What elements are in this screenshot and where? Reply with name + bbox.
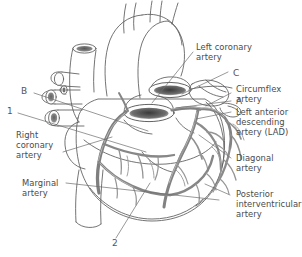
aortic-ostium-lumen: [130, 108, 169, 119]
superior-vena-cava: [70, 48, 79, 122]
label-left-coronary-artery: Left coronary artery: [196, 42, 252, 62]
leader-marker-2: [116, 183, 150, 238]
diagonal-artery-vessel: [195, 122, 221, 170]
svc-cut-lumen: [76, 46, 92, 52]
label-marginal-artery: Marginal artery: [22, 178, 58, 198]
circumflex-branch-5: [219, 178, 229, 194]
cut-vessel-b: [60, 86, 67, 94]
label-marker-c: C: [233, 68, 239, 78]
left-auricle-fold: [199, 86, 223, 97]
left-common-carotid: [150, 1, 152, 22]
label-left-anterior-descending-artery: Left anterior descending artery (LAD): [236, 107, 288, 138]
leader-diagonal-artery: [199, 135, 231, 158]
twig-2: [127, 156, 129, 176]
inferior-vena-cava: [76, 170, 79, 222]
label-marker-2: 2: [112, 238, 118, 248]
rca-branch-small-2: [138, 155, 143, 178]
marginal-branch-1: [115, 178, 117, 198]
heart-outline-group: [42, 1, 241, 228]
ivc-bottom: [76, 222, 101, 228]
label-posterior-interventricular-artery: Posterior interventricular artery: [236, 189, 302, 220]
pulmonary-trunk-lumen: [154, 86, 186, 96]
label-marker-1: 1: [7, 106, 13, 116]
marginal-branch-2: [133, 187, 136, 205]
diagonal-branch-3: [190, 136, 202, 159]
brachiocephalic-trunk: [124, 4, 126, 33]
ivc-right-wall: [101, 170, 103, 224]
label-marker-a: A: [236, 96, 242, 106]
rca-branch-small-1: [119, 150, 121, 174]
right-atrium-outline: [65, 122, 85, 169]
septal-branch-2: [178, 166, 188, 184]
leader-marker-a: [176, 101, 231, 108]
label-circumflex-artery: Circumflex artery: [236, 84, 281, 104]
rca-branch-small-3: [155, 157, 158, 180]
rca-proximal-stub: [119, 93, 128, 111]
aortic-arch: [142, 14, 185, 76]
svc-right-wall: [94, 50, 96, 92]
left-common-carotid-right: [160, 1, 162, 22]
rca-branch-acute-marginal: [104, 144, 174, 157]
atrial-detail-1: [124, 120, 152, 134]
coronary-artery-tree: [98, 93, 245, 207]
left-subclavian: [172, 3, 178, 24]
pda-branch-1: [196, 184, 199, 202]
label-right-coronary-artery: Right coronary artery: [16, 130, 53, 161]
diagram-canvas: Left coronary artery C Circumflex artery…: [0, 0, 302, 257]
posterior-interventricular-artery-vessel: [170, 156, 213, 195]
label-diagonal-artery: Diagonal artery: [236, 153, 274, 173]
label-marker-b: B: [21, 86, 27, 96]
leader-marginal-artery: [66, 183, 219, 200]
